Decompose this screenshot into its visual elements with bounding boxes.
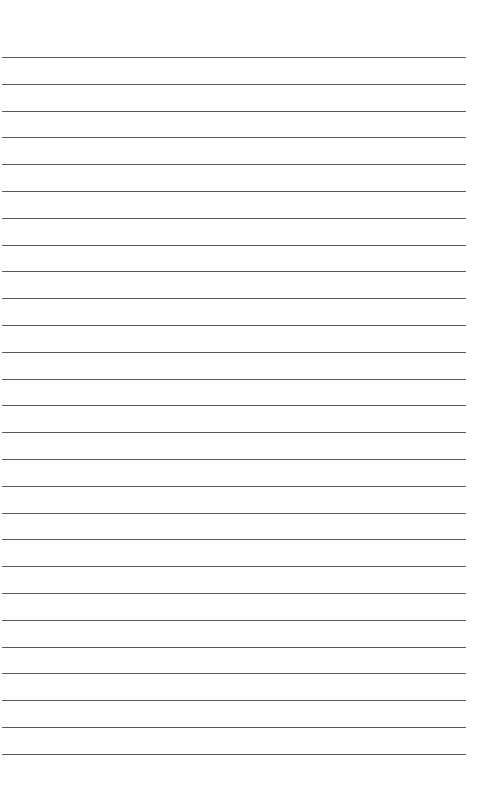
ruled-line	[2, 539, 466, 540]
ruled-line	[2, 432, 466, 433]
ruled-line	[2, 513, 466, 514]
ruled-line	[2, 352, 466, 353]
ruled-line	[2, 298, 466, 299]
ruled-line	[2, 191, 466, 192]
ruled-line	[2, 727, 466, 728]
ruled-line	[2, 486, 466, 487]
ruled-line	[2, 593, 466, 594]
ruled-line	[2, 379, 466, 380]
ruled-line	[2, 405, 466, 406]
ruled-line	[2, 84, 466, 85]
ruled-line	[2, 673, 466, 674]
ruled-line	[2, 620, 466, 621]
ruled-line	[2, 700, 466, 701]
ruled-line	[2, 325, 466, 326]
ruled-line	[2, 57, 466, 58]
ruled-line	[2, 218, 466, 219]
ruled-line	[2, 459, 466, 460]
ruled-line	[2, 566, 466, 567]
ruled-line	[2, 647, 466, 648]
ruled-line	[2, 111, 466, 112]
ruled-line	[2, 164, 466, 165]
lined-paper-page	[0, 0, 489, 802]
ruled-line	[2, 754, 466, 755]
ruled-line	[2, 137, 466, 138]
ruled-line	[2, 271, 466, 272]
ruled-line	[2, 245, 466, 246]
